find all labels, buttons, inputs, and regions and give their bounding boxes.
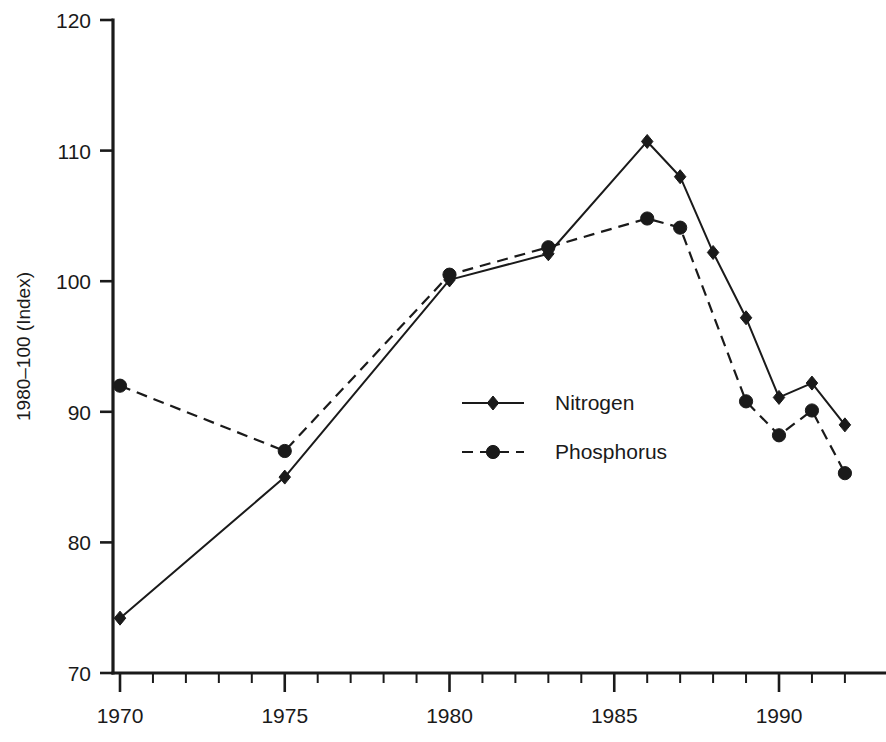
y-axis-title: 1980–100 (Index) — [13, 272, 34, 421]
chart-figure: 708090100110120 1980–100 (Index) 1970197… — [0, 0, 886, 742]
x-tick-label: 1970 — [97, 704, 144, 727]
data-point-nitrogen — [114, 611, 125, 625]
data-point-phosphorus — [278, 444, 291, 457]
y-tick-label: 100 — [56, 270, 91, 293]
data-point-phosphorus — [674, 221, 687, 234]
x-axis-group: 19701975198019851990 — [97, 673, 886, 727]
x-tick-label: 1980 — [426, 704, 473, 727]
series-line-phosphorus — [120, 219, 845, 474]
y-tick-label: 120 — [56, 9, 91, 32]
y-axis-group: 708090100110120 1980–100 (Index) — [13, 9, 113, 685]
legend-marker-phosphorus — [486, 445, 499, 458]
data-point-phosphorus — [772, 429, 785, 442]
chart-legend: NitrogenPhosphorus — [462, 391, 667, 463]
legend-entry-nitrogen: Nitrogen — [462, 391, 634, 414]
y-tick-label: 110 — [58, 140, 91, 163]
y-tick-label: 80 — [68, 531, 91, 554]
x-tick-label: 1990 — [756, 704, 803, 727]
series-nitrogen — [114, 134, 850, 625]
plot-series-group — [113, 134, 851, 625]
data-point-phosphorus — [838, 467, 851, 480]
series-phosphorus — [113, 212, 851, 480]
x-tick-label: 1985 — [591, 704, 638, 727]
y-tick-marks — [100, 20, 113, 673]
data-point-phosphorus — [641, 212, 654, 225]
x-tick-label: 1975 — [261, 704, 308, 727]
legend-label-phosphorus: Phosphorus — [555, 440, 667, 463]
legend-marker-nitrogen — [487, 396, 498, 410]
y-tick-labels: 708090100110120 — [56, 9, 91, 685]
legend-label-nitrogen: Nitrogen — [555, 391, 634, 414]
legend-entry-phosphorus: Phosphorus — [462, 440, 667, 463]
y-tick-label: 70 — [68, 662, 91, 685]
data-point-nitrogen — [773, 390, 784, 404]
data-point-phosphorus — [113, 379, 126, 392]
x-tick-labels: 19701975198019851990 — [97, 704, 803, 727]
series-line-nitrogen — [120, 141, 845, 618]
data-point-phosphorus — [542, 241, 555, 254]
data-point-nitrogen — [740, 311, 751, 325]
data-point-phosphorus — [739, 395, 752, 408]
y-tick-label: 90 — [68, 401, 91, 424]
data-point-phosphorus — [443, 268, 456, 281]
data-point-phosphorus — [805, 404, 818, 417]
data-point-nitrogen — [707, 245, 718, 259]
line-chart: 708090100110120 1980–100 (Index) 1970197… — [0, 0, 886, 742]
